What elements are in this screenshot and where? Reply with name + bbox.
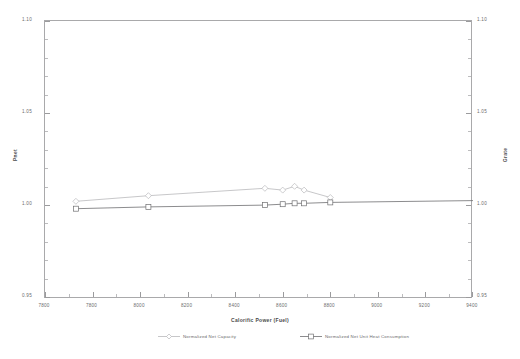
y-axis-title-left: Pnet [12,139,18,171]
series-1-line [76,186,330,201]
series-svg [45,21,473,299]
series-layer [45,21,471,297]
diamond-marker-icon [158,333,180,340]
x-tick-label: 8800 [324,303,335,308]
y-tick-label-left: 1.00 [22,201,32,206]
plot-area [44,20,472,298]
legend-label: Normalized Net Unit Heat Consumption [325,334,409,339]
y-tick-label-right: 1.00 [477,201,487,206]
x-tick-label: 9200 [419,303,430,308]
series-normalized-net-unit-heat-consumption [73,200,473,211]
x-tick-label: 8400 [229,303,240,308]
chart-legend: Normalized Net Capacity Normalized Net U… [0,331,520,347]
legend-item-normalized-net-capacity[interactable]: Normalized Net Capacity [158,333,236,340]
y-axis-title-right: Grate [502,139,508,171]
x-tick-label: 8000 [133,303,144,308]
x-tick-label: 9400 [466,303,477,308]
x-tick-label: 7800 [38,303,49,308]
legend-item-normalized-net-unit-heat-consumption[interactable]: Normalized Net Unit Heat Consumption [300,333,409,340]
y-tick-label-right: 1.05 [477,109,487,114]
y-tick-label-right: 1.10 [477,17,487,22]
series-2-markers [73,200,332,211]
square-marker-icon [300,333,322,340]
x-tick-label: 7800 [86,303,97,308]
legend-label: Normalized Net Capacity [183,334,236,339]
x-axis-title: Calorific Power (Fuel) [0,317,520,323]
x-tick-label: 8200 [181,303,192,308]
y-tick-label-left: 1.10 [22,17,32,22]
y-tick-label-left: 0.95 [22,293,32,298]
series-2-line [76,201,473,209]
y-tick-label-right: 0.95 [477,293,487,298]
x-tick-label: 8600 [276,303,287,308]
y-tick-label-left: 1.05 [22,109,32,114]
x-tick-label: 9000 [371,303,382,308]
chart-figure: 1.10 1.05 1.00 0.95 1.10 1.05 1.00 0.95 … [0,0,520,359]
